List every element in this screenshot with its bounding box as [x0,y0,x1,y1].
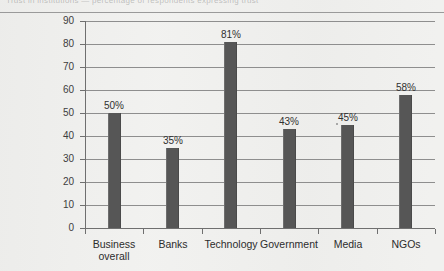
y-axis-label-40: 40 [48,131,74,141]
gridline-70 [85,67,435,68]
scan-speck [336,123,338,125]
x-axis-category-label-business-overall: Businessoverall [82,238,146,262]
gridline-80 [85,44,435,45]
y-axis-label-30: 30 [48,154,74,164]
y-axis-label-text: 30 [48,154,74,164]
gridline-50 [85,113,435,114]
bar-value-label-business-overall: 50% [90,100,138,111]
y-axis-line [85,21,86,229]
x-axis-tick-0 [143,229,144,234]
bar-banks [166,148,179,228]
gridline-20 [85,182,435,183]
x-axis-tick-4 [377,229,378,234]
bar-business-overall [108,113,121,228]
category-label-line: Media [316,238,380,250]
x-axis-category-label-ngos: NGOs [374,238,438,250]
y-axis-label-text: 40 [48,131,74,141]
y-axis-label-text: 80 [48,39,74,49]
bar-value-label-government: 43% [265,116,313,127]
category-label-line: overall [82,250,146,262]
y-axis-label-text: 70 [48,62,74,72]
x-axis-tick-3 [318,229,319,234]
bar-media [341,125,354,228]
y-axis-label-20: 20 [48,177,74,187]
x-axis-category-label-media: Media [316,238,380,250]
y-axis-label-90: 90 [48,16,74,26]
category-label-line: Business [82,238,146,250]
x-axis-tick-1 [202,229,203,234]
gridline-40 [85,136,435,137]
x-axis-category-label-banks: Banks [141,238,205,250]
bar-value-label-ngos: 58% [382,82,430,93]
y-axis-label-text: 90 [48,16,74,26]
y-axis-label-text: 10 [48,200,74,210]
y-axis-label-70: 70 [48,62,74,72]
y-axis-label-10: 10 [48,200,74,210]
category-label-line: Government [257,238,321,250]
bar-value-label-technology: 81% [207,29,255,40]
x-axis-category-label-technology: Technology [199,238,263,250]
x-axis-end-tick-left [85,229,86,234]
x-axis-end-tick-right [435,229,436,234]
category-label-line: Technology [199,238,263,250]
bar-ngos [399,95,412,228]
y-axis-label-0: 0 [48,223,74,233]
y-axis-label-text: 0 [48,223,74,233]
bar-technology [224,42,237,228]
y-axis-label-text: 20 [48,177,74,187]
bar-government [283,129,296,228]
gridline-30 [85,159,435,160]
y-axis-label-50: 50 [48,108,74,118]
bar-chart: 010203040506070809050%Businessoverall35%… [0,0,444,271]
y-axis-label-60: 60 [48,85,74,95]
gridline-90 [85,21,435,22]
bar-value-label-banks: 35% [149,135,197,146]
y-axis-label-80: 80 [48,39,74,49]
y-axis-label-text: 60 [48,85,74,95]
category-label-line: Banks [141,238,205,250]
gridline-10 [85,205,435,206]
category-label-line: NGOs [374,238,438,250]
bar-value-label-media: 45% [324,112,372,123]
y-axis-label-text: 50 [48,108,74,118]
x-axis-category-label-government: Government [257,238,321,250]
x-axis-tick-2 [260,229,261,234]
